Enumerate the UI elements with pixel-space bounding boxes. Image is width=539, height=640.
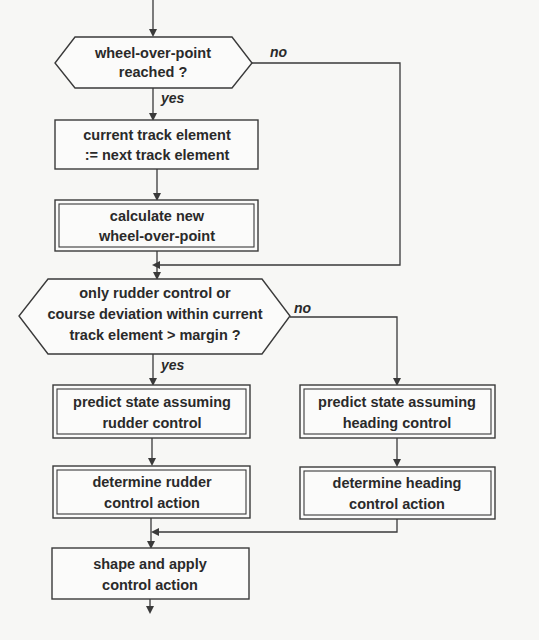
process-apply-control-action: shape and apply control action: [52, 548, 249, 599]
process-calculate-wheel-over-point: calculate new wheel-over-point: [55, 200, 258, 251]
predict-rudder-line-1: predict state assuming: [73, 394, 231, 410]
determine-heading-line-1: determine heading: [333, 475, 462, 491]
edge-predict-to-determine-rudder: [148, 438, 156, 466]
edge-mode-no: no: [290, 300, 401, 386]
decision-wop-line-1: wheel-over-point: [94, 45, 211, 61]
decision-wop-line-2: reached ?: [119, 64, 188, 80]
edge-mode-yes: yes: [149, 354, 185, 386]
process-next-element-line-2: := next track element: [85, 147, 230, 163]
decision-wheel-over-point: wheel-over-point reached ?: [55, 37, 252, 88]
determine-rudder-line-2: control action: [104, 495, 200, 511]
determine-rudder-line-1: determine rudder: [92, 474, 212, 490]
process-determine-rudder: determine rudder control action: [53, 466, 250, 518]
predict-heading-line-2: heading control: [343, 415, 452, 431]
process-calc-wop-line-1: calculate new: [110, 208, 205, 224]
edge-label-wop-no: no: [270, 44, 288, 60]
edge-label-mode-no: no: [294, 300, 312, 316]
process-calc-wop-line-2: wheel-over-point: [98, 228, 215, 244]
process-predict-heading: predict state assuming heading control: [300, 385, 495, 438]
predict-rudder-line-2: rudder control: [102, 415, 201, 431]
apply-action-line-2: control action: [102, 577, 198, 593]
predict-heading-line-1: predict state assuming: [318, 394, 476, 410]
decision-control-mode: only rudder control or course deviation …: [19, 279, 290, 354]
process-next-element-line-1: current track element: [83, 127, 231, 143]
entry-arrow: [149, 0, 157, 37]
edge-predict-to-determine-heading: [393, 438, 401, 467]
process-next-track-element: current track element := next track elem…: [55, 120, 258, 169]
process-predict-rudder: predict state assuming rudder control: [53, 385, 250, 438]
edge-wop-yes: yes: [149, 88, 185, 121]
edge-label-mode-yes: yes: [160, 357, 185, 373]
exit-arrow: [146, 599, 154, 614]
edge-merge: [147, 518, 397, 549]
decision-mode-line-2: course deviation within current: [47, 306, 262, 322]
edge-next-to-calc: [153, 169, 161, 201]
process-determine-heading: determine heading control action: [300, 467, 495, 519]
determine-heading-line-2: control action: [349, 496, 445, 512]
flowchart: wheel-over-point reached ? no yes curren…: [0, 0, 539, 640]
apply-action-line-1: shape and apply: [93, 556, 207, 572]
decision-mode-line-3: track element > margin ?: [69, 327, 240, 343]
decision-mode-line-1: only rudder control or: [79, 285, 231, 301]
edge-label-wop-yes: yes: [160, 90, 185, 106]
